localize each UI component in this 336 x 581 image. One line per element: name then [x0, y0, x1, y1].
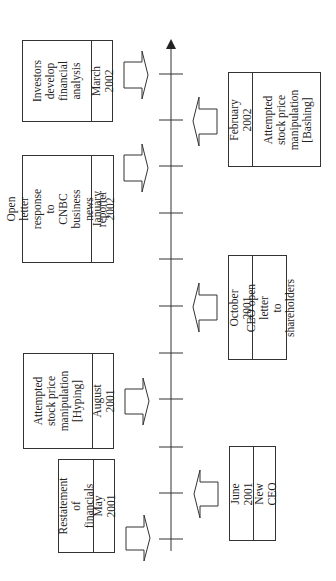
- event-date: June 2001: [230, 447, 253, 540]
- event-box-october-2001: October 2001 CEO open letter to sharehol…: [228, 255, 287, 360]
- arrow-right-icon: [124, 51, 148, 99]
- event-box-may-2001: Restatement of financials May 2001: [58, 459, 115, 553]
- event-box-june-2001: June 2001 New CEO: [229, 446, 276, 541]
- event-date: August 2001: [92, 354, 115, 448]
- event-description: CEO open letter to shareholders: [252, 256, 288, 359]
- event-description: Investors develop financial analysis: [23, 41, 91, 121]
- arrow-left-icon: [193, 283, 217, 332]
- event-description: Open letter response to CNBC business ne…: [23, 156, 91, 262]
- event-date: May 2001: [93, 460, 116, 552]
- arrow-right-icon: [125, 378, 149, 425]
- event-description: Attempted stock price manipulation [Hypi…: [24, 354, 92, 448]
- event-box-february-2002: February 2002 Attempted stock price mani…: [228, 72, 321, 167]
- event-date: January 2002: [91, 156, 115, 262]
- event-box-march-2002: Investors develop financial analysis Mar…: [22, 40, 113, 122]
- event-description: Restatement of financials: [59, 460, 93, 552]
- arrow-right-icon: [124, 144, 148, 192]
- arrow-right-icon: [126, 515, 150, 561]
- event-box-january-2002: Open letter response to CNBC business ne…: [22, 155, 114, 263]
- axis-arrowhead-icon: [166, 39, 176, 49]
- arrow-left-icon: [194, 470, 218, 518]
- event-date: March 2002: [91, 41, 114, 121]
- event-description: Attempted stock price manipulation [Bash…: [252, 73, 322, 166]
- arrow-left-icon: [193, 97, 217, 146]
- event-description: New CEO: [253, 447, 277, 540]
- event-box-august-2001: Attempted stock price manipulation [Hypi…: [23, 353, 114, 449]
- event-date: February 2002: [229, 73, 252, 166]
